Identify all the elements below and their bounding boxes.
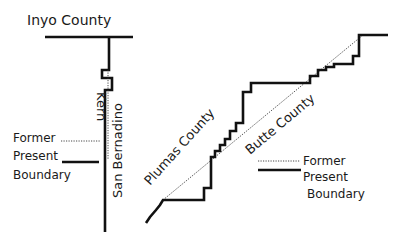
left-legend: Former Present Boundary [13,131,100,182]
legend-boundary-label: Boundary [307,187,365,201]
boundary-diagram: Inyo County Kern San Bernadino Former Pr… [0,0,400,240]
left-diagram: Inyo County Kern San Bernadino Former Pr… [13,12,133,232]
butte-county-label: Butte County [242,90,318,157]
right-legend: Former Present Boundary [258,154,365,201]
inyo-county-label: Inyo County [27,12,111,28]
legend-present-label: Present [13,149,58,163]
legend-former-label: Former [303,154,346,168]
right-diagram: Plumas County Butte County Former Presen… [141,35,388,223]
legend-former-label: Former [13,131,56,145]
san-bernadino-label: San Bernadino [110,103,125,198]
legend-present-label: Present [303,170,348,184]
kern-label: Kern [94,92,109,121]
legend-boundary-label: Boundary [13,168,71,182]
plumas-county-label: Plumas County [141,105,218,188]
